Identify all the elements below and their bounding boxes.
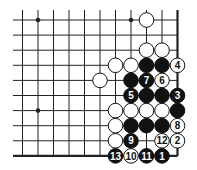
- move-number: 12: [156, 135, 168, 146]
- stone-circle: [155, 58, 170, 73]
- white-stone-8: 8: [170, 118, 185, 133]
- star-point: [36, 18, 41, 23]
- stone-circle: [155, 43, 170, 58]
- black-stone-13: 13: [108, 149, 123, 164]
- black-stone-9: 9: [124, 134, 139, 149]
- stone-circle: [155, 88, 170, 103]
- stone-circle: [124, 58, 139, 73]
- white-stone-6: 6: [155, 73, 170, 88]
- move-number: 7: [144, 75, 150, 86]
- stone-circle: [170, 103, 185, 118]
- go-board: 47653891221310111: [0, 0, 197, 170]
- white-stone-4: 4: [170, 58, 185, 73]
- move-number: 13: [110, 151, 122, 162]
- stone-circle: [139, 43, 154, 58]
- move-number: 5: [128, 90, 134, 101]
- move-number: 1: [159, 151, 165, 162]
- stone-circle: [108, 118, 123, 133]
- stone-circle: [155, 103, 170, 118]
- move-number: 11: [141, 151, 152, 162]
- star-point: [129, 18, 134, 23]
- black-stone-5: 5: [124, 88, 139, 103]
- black-stone: [155, 118, 170, 133]
- white-stone: [93, 73, 108, 88]
- stone-circle: [124, 103, 139, 118]
- black-stone: [139, 58, 154, 73]
- black-stone: [139, 88, 154, 103]
- black-stone-11: 11: [139, 149, 154, 164]
- star-point: [36, 108, 41, 113]
- black-stone: [170, 103, 185, 118]
- move-number: 9: [128, 135, 134, 146]
- stone-circle: [139, 88, 154, 103]
- white-stone: [124, 58, 139, 73]
- white-stone: [155, 43, 170, 58]
- black-stone: [155, 88, 170, 103]
- white-stone: [139, 13, 154, 28]
- white-stone: [108, 134, 123, 149]
- stone-circle: [139, 58, 154, 73]
- stone-circle: [108, 103, 123, 118]
- black-stone: [124, 118, 139, 133]
- white-stone-10: 10: [124, 149, 139, 164]
- stone-circle: [139, 103, 154, 118]
- move-number: 3: [175, 90, 181, 101]
- white-stone: [155, 103, 170, 118]
- black-stone: [155, 58, 170, 73]
- white-stone: [108, 103, 123, 118]
- stone-circle: [139, 13, 154, 28]
- stone-circle: [155, 118, 170, 133]
- black-stone-7: 7: [139, 73, 154, 88]
- stone-circle: [108, 58, 123, 73]
- white-stone: [139, 43, 154, 58]
- move-number: 4: [175, 60, 181, 71]
- stone-circle: [108, 134, 123, 149]
- stone-circle: [124, 118, 139, 133]
- black-stone-1: 1: [155, 149, 170, 164]
- move-number: 10: [125, 151, 137, 162]
- stone-circle: [139, 118, 154, 133]
- black-stone: [124, 73, 139, 88]
- white-stone: [124, 103, 139, 118]
- black-stone: [139, 118, 154, 133]
- white-stone-2: 2: [170, 134, 185, 149]
- white-stone: [139, 103, 154, 118]
- white-stone: [108, 58, 123, 73]
- white-stone: [108, 118, 123, 133]
- move-number: 8: [175, 120, 181, 131]
- move-number: 6: [159, 75, 165, 86]
- move-number: 2: [175, 135, 181, 146]
- go-diagram: 47653891221310111: [0, 0, 197, 170]
- black-stone-3: 3: [170, 88, 185, 103]
- stone-circle: [93, 73, 108, 88]
- stone-circle: [124, 73, 139, 88]
- white-stone-12: 12: [155, 134, 170, 149]
